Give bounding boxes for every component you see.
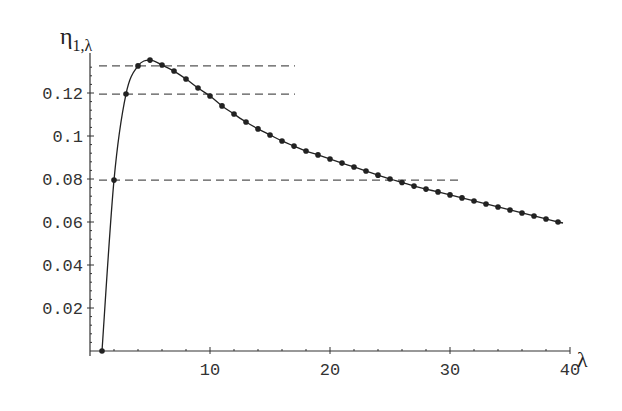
x-axis-title: λ [577,347,588,372]
y-axis-title: η1,λ [60,23,93,54]
data-point [399,180,405,186]
x-tick-label: 20 [320,361,340,380]
data-point [99,348,105,354]
data-point [363,168,369,174]
y-tick-label: 0.08 [42,171,83,190]
data-point [315,152,321,158]
data-point [123,91,129,97]
data-point [279,138,285,144]
data-point [135,63,141,69]
data-point [543,216,549,222]
data-point [471,198,477,204]
y-tick-label: 0.02 [42,300,83,319]
data-point [327,156,333,162]
data-point [339,160,345,166]
data-point [483,201,489,207]
data-point [171,68,177,74]
x-ticks: 10203040 [114,347,580,380]
data-point [243,119,249,125]
x-tick-label: 10 [200,361,220,380]
data-point [435,189,441,195]
y-ticks: 0.020.040.060.080.10.12 [42,67,94,342]
data-point [423,186,429,192]
data-point [555,219,561,225]
x-tick-label: 30 [440,361,460,380]
data-point [411,183,417,189]
data-point [207,93,213,99]
chart: 10203040 0.020.040.060.080.10.12 η1,λ λ [0,0,622,411]
data-point [507,207,513,213]
data-point [219,103,225,109]
dashed-reference-lines [99,66,463,180]
data-point [387,176,393,182]
axes: 10203040 0.020.040.060.080.10.12 [42,53,580,380]
data-point [231,111,237,117]
data-point [531,213,537,219]
data-point [111,177,117,183]
data-point [267,132,273,138]
data-point [183,76,189,82]
data-point [447,192,453,198]
y-tick-label: 0.1 [52,128,83,147]
series-line [102,60,563,351]
data-point [459,195,465,201]
data-series [99,57,563,353]
data-point [375,172,381,178]
y-tick-label: 0.06 [42,214,83,233]
data-point [291,143,297,149]
data-point [519,210,525,216]
y-axis-title-main: η [60,23,73,49]
data-point [495,204,501,210]
data-point [255,126,261,132]
y-axis-title-sub: 1,λ [73,37,93,54]
data-point [147,57,153,63]
data-point [303,148,309,154]
data-point [351,164,357,170]
y-tick-label: 0.12 [42,85,83,104]
y-tick-label: 0.04 [42,257,83,276]
data-point [159,62,165,68]
data-point [195,85,201,91]
